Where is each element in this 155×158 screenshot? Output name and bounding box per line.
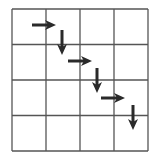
- grid-diagram: [0, 0, 155, 158]
- arrow-down-icon: [57, 30, 67, 55]
- arrow-right-icon: [101, 93, 125, 103]
- arrow-down-icon: [128, 105, 138, 130]
- grid: [12, 9, 148, 151]
- arrow-path: [32, 20, 138, 130]
- arrow-right-icon: [32, 20, 56, 30]
